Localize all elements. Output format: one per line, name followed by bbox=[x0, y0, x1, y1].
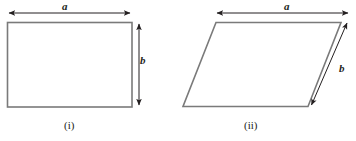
geometry-figures-svg bbox=[0, 0, 356, 141]
parallelogram-side-label: b bbox=[339, 63, 345, 74]
figure-parallelogram-group bbox=[183, 13, 348, 107]
rectangle-width-label: a bbox=[62, 1, 68, 12]
figure-caption-i: (i) bbox=[64, 120, 74, 131]
figure-caption-ii: (ii) bbox=[244, 120, 257, 131]
rectangle-shape bbox=[8, 23, 133, 108]
figure-rectangle-group bbox=[8, 13, 140, 107]
figure-container: a b a b (i) (ii) bbox=[0, 0, 356, 141]
parallelogram-shape bbox=[183, 23, 341, 107]
rectangle-height-label: b bbox=[140, 55, 146, 66]
parallelogram-width-label: a bbox=[284, 1, 290, 12]
